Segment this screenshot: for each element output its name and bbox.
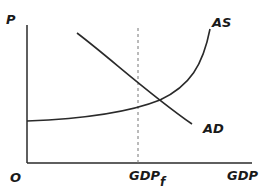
as-ad-diagram: P AS AD O GDPf GDP — [0, 0, 266, 192]
gdp-f-subscript: f — [160, 175, 167, 189]
gdp-f-label: GDPf — [129, 168, 167, 189]
gdp-f-main: GDP — [129, 168, 160, 183]
ad-curve-label: AD — [202, 121, 224, 136]
y-axis-label: P — [6, 12, 16, 27]
as-curve — [27, 29, 210, 121]
ad-curve — [77, 33, 192, 124]
x-axis-label: GDP — [227, 168, 258, 183]
origin-label: O — [10, 170, 21, 185]
as-curve-label: AS — [211, 15, 231, 30]
